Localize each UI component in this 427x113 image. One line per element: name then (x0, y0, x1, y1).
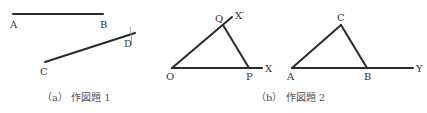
figure-a: A B C D （a） 作図題 1 (9, 14, 135, 103)
label-a2: A (286, 71, 295, 82)
label-x: X (265, 63, 273, 74)
segment-cb (341, 25, 367, 68)
label-x-prime: X′ (235, 10, 245, 21)
label-p: P (246, 71, 253, 82)
label-b: B (100, 19, 107, 30)
label-o: O (166, 71, 174, 82)
label-c2: C (337, 12, 345, 23)
label-b2: B (364, 71, 371, 82)
label-c: C (40, 66, 48, 77)
segment-cd (45, 33, 135, 62)
label-y: Y (415, 63, 423, 74)
segment-qp (223, 25, 249, 68)
figure-b-left: O P Q X X′ (166, 10, 273, 82)
construction-diagrams: A B C D （a） 作図題 1 O P Q X X′ A B C Y （b）… (0, 0, 427, 113)
label-d: D (124, 38, 132, 49)
caption-b: （b） 作図題 2 (256, 92, 325, 103)
label-a: A (9, 19, 18, 30)
segment-ac (292, 25, 341, 68)
figure-b-right: A B C Y （b） 作図題 2 (256, 12, 423, 103)
caption-a: （a） 作図題 1 (42, 92, 111, 103)
label-q: Q (215, 13, 223, 24)
